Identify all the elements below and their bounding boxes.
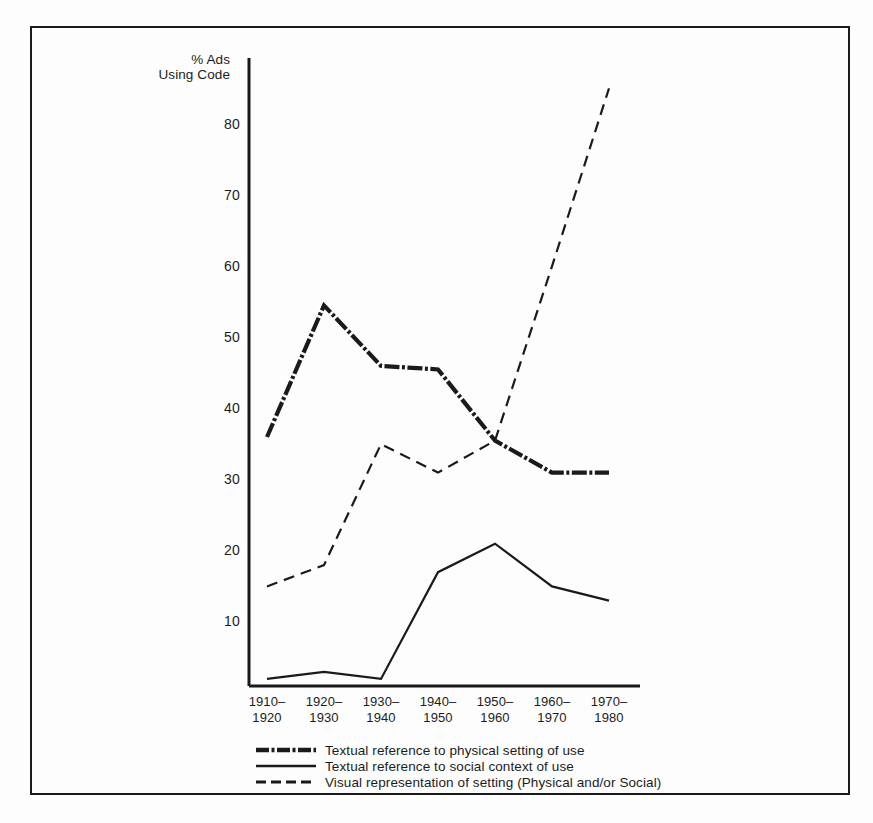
thin-solid-swatch-icon [255,759,317,773]
legend-label-physical-setting: Textual reference to physical setting of… [325,743,585,758]
legend-item-social-context: Textual reference to social context of u… [255,758,685,774]
dashed-swatch-icon [255,775,317,789]
chart-legend: Textual reference to physical setting of… [255,742,685,790]
legend-label-social-context: Textual reference to social context of u… [325,759,574,774]
legend-label-visual-representation: Visual representation of setting (Physic… [325,775,661,790]
figure-border [30,26,850,795]
legend-item-visual-representation: Visual representation of setting (Physic… [255,774,685,790]
legend-item-physical-setting: Textual reference to physical setting of… [255,742,685,758]
thick-dash-dot-swatch-icon [255,743,317,757]
